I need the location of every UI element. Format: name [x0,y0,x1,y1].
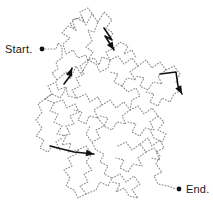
start-label: Start. [5,44,33,55]
maze-path-lower-left-tail [64,150,86,198]
maze-path-mid-left-inner [54,100,79,136]
maze-path-mid-right-web [110,56,138,86]
maze-path-mid-bridge-c [122,86,140,110]
maze-path-lower-right-web [116,142,146,172]
maze-markers-layer [40,47,182,192]
maze-path-lower-right-block [146,148,176,189]
start-dot-marker [40,47,45,52]
end-dot-marker [177,187,182,192]
maze-path-center-lower-hook [86,118,104,142]
end-label: End. [186,184,209,195]
maze-path-mid-bridge-b [45,87,66,99]
maze-path-center-ring [100,100,130,130]
maze-path-lower-center-web [112,174,140,198]
arrow-upper-right-head-icon [107,41,114,50]
maze-path-mid-right-lower [128,106,158,136]
maze-canvas [0,0,213,211]
maze-path-mid-bridge-a [88,60,110,72]
maze-path-mid-left-web [45,99,78,152]
maze-path-lower-connector [78,142,112,194]
maze-path-far-left-lower [36,99,62,152]
maze-path-center-small-hook [114,42,136,58]
maze-path-start-stub [45,43,62,80]
maze-path-upper-left-loop [57,14,98,80]
maze-arrows-layer [50,28,182,156]
maze-puzzle-figure: Start. End. [0,0,213,211]
maze-path-mid-center-web [74,94,102,124]
maze-path-right-upper-block [136,60,166,90]
